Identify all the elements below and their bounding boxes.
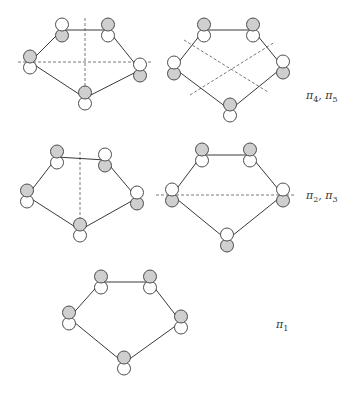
- upper-lobe: [247, 18, 260, 31]
- upper-lobe: [118, 351, 131, 364]
- nodal-plane: [190, 42, 275, 95]
- p-orbital: [74, 218, 87, 242]
- p-orbital: [224, 98, 237, 122]
- upper-lobe: [51, 145, 64, 158]
- upper-lobe: [221, 228, 234, 241]
- diagram-pi4: [18, 18, 152, 110]
- p-orbital: [63, 306, 76, 330]
- upper-lobe: [198, 18, 211, 31]
- upper-lobe: [79, 86, 92, 99]
- upper-lobe: [95, 270, 108, 283]
- upper-lobe: [166, 183, 179, 196]
- p-orbital: [277, 55, 290, 79]
- diagram-pi5: [168, 18, 290, 122]
- upper-lobe: [196, 143, 209, 156]
- upper-lobe: [74, 218, 87, 231]
- upper-lobe: [134, 58, 147, 71]
- diagram-pi2: [21, 145, 144, 242]
- label-pi2-pi3: π2, π3: [306, 189, 338, 204]
- upper-lobe: [56, 18, 69, 31]
- label-pi1: π1: [276, 318, 288, 333]
- p-orbital: [131, 186, 144, 210]
- upper-lobe: [168, 56, 181, 69]
- diagram-pi3: [156, 143, 296, 252]
- label-pi4-pi5: π4, π5: [306, 89, 338, 104]
- diagram-pi1: [63, 270, 188, 375]
- upper-lobe: [131, 186, 144, 199]
- upper-lobe: [244, 143, 257, 156]
- upper-lobe: [99, 148, 112, 161]
- upper-lobe: [102, 18, 115, 31]
- p-orbital: [168, 56, 181, 80]
- p-orbital: [221, 228, 234, 252]
- nodal-plane: [184, 40, 268, 92]
- upper-lobe: [144, 270, 157, 283]
- ring-bonds: [172, 155, 283, 240]
- upper-lobe: [63, 306, 76, 319]
- upper-lobe: [24, 50, 37, 63]
- upper-lobe: [21, 184, 34, 197]
- p-orbital: [79, 86, 92, 110]
- p-orbital: [175, 310, 188, 334]
- p-orbital: [21, 184, 34, 208]
- upper-lobe: [175, 310, 188, 323]
- pi-orbital-diagrams: [0, 0, 352, 395]
- upper-lobe: [224, 98, 237, 111]
- upper-lobe: [277, 55, 290, 68]
- upper-lobe: [277, 183, 290, 196]
- p-orbital: [134, 58, 147, 82]
- p-orbital: [118, 351, 131, 375]
